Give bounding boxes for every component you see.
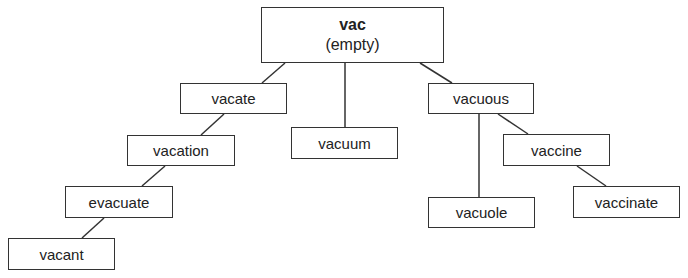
root-node-vac: vac (empty) <box>261 7 444 63</box>
node-vacuum: vacuum <box>291 127 398 159</box>
node-evacuate: evacuate <box>65 186 173 218</box>
node-vacation: vacation <box>127 135 235 166</box>
root-title: vac <box>339 15 366 35</box>
node-vacant: vacant <box>8 238 115 270</box>
node-vaccine: vaccine <box>503 134 610 166</box>
node-vacuous: vacuous <box>428 83 534 114</box>
node-vaccinate: vaccinate <box>573 186 680 218</box>
root-subtitle: (empty) <box>325 35 379 55</box>
node-vacate: vacate <box>180 83 287 114</box>
node-vacuole: vacuole <box>428 197 535 228</box>
